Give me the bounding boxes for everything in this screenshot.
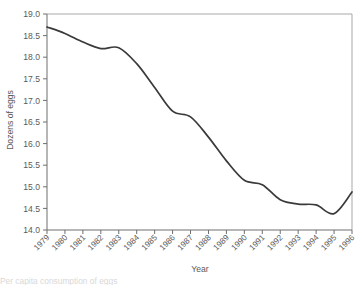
y-tick-label: 17.0 [23,96,40,106]
y-tick-label: 18.5 [23,31,40,41]
egg-consumption-line-chart: 19.018.518.017.517.016.516.015.515.014.5… [0,0,360,285]
y-tick-label: 19.0 [23,9,40,19]
cut-off-caption: Per capita consumption of eggs [0,277,360,285]
y-tick-label: 16.0 [23,139,40,149]
caption-text: Per capita consumption of eggs [0,277,360,285]
y-tick-label: 16.5 [23,117,40,127]
y-tick-label: 14.5 [23,204,40,214]
y-tick-label: 15.5 [23,160,40,170]
y-axis-title: Dozens of eggs [5,90,15,150]
chart-svg: 19.018.518.017.517.016.516.015.515.014.5… [0,0,360,285]
y-tick-label: 17.5 [23,74,40,84]
y-tick-label: 15.0 [23,182,40,192]
x-axis-title: Year [191,264,209,274]
y-tick-label: 14.0 [23,225,40,235]
y-tick-label: 18.0 [23,52,40,62]
